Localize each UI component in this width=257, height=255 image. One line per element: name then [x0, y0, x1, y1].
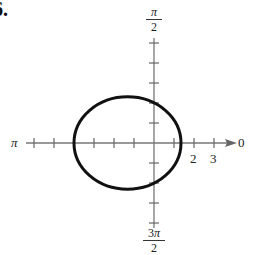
frac-denominator: 2	[143, 241, 165, 254]
angle-label-0: 0	[238, 136, 245, 149]
tick-label-2: 2	[190, 152, 197, 165]
polar-axis	[26, 138, 237, 148]
frac-numerator: 3π	[143, 227, 165, 241]
tick-label-3: 3	[210, 152, 217, 165]
angle-label-3pi-over-2: 3π 2	[143, 227, 165, 254]
frac-numerator: π	[146, 6, 162, 20]
polar-graph-figure: 6.	[0, 0, 257, 255]
angle-label-pi: π	[11, 136, 18, 149]
frac-denominator: 2	[146, 20, 162, 33]
vertical-axis	[149, 38, 159, 228]
polar-plot	[0, 0, 257, 255]
angle-label-pi-over-2: π 2	[146, 6, 162, 33]
